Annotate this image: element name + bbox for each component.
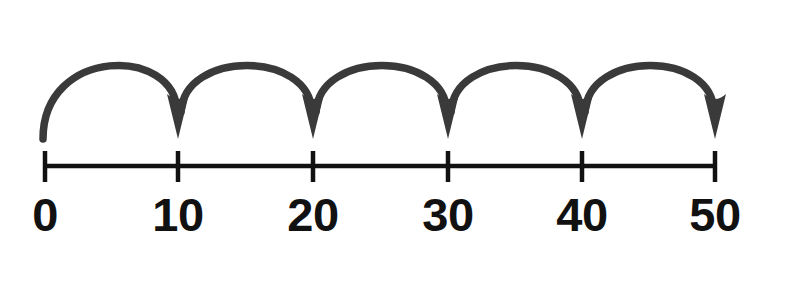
jump-arc-40-to-50 [585,66,714,113]
arrowhead-at-30 [437,94,459,139]
jump-arrowheads-group [167,94,726,139]
tick-label-0: 0 [32,191,58,238]
jump-arc-20-to-30 [316,66,447,113]
arrowhead-at-10 [167,94,189,139]
jump-arcs-group [43,65,714,139]
tick-label-10: 10 [152,191,203,238]
number-line-graphic [0,0,790,295]
arrowhead-at-40 [571,94,593,139]
arrowhead-at-20 [302,94,324,139]
jump-arc-0-to-10 [43,65,177,139]
jump-arc-10-to-20 [181,66,312,113]
tick-label-30: 30 [422,191,473,238]
tick-label-50: 50 [689,191,740,238]
arrowhead-at-50 [704,94,726,139]
number-line-figure: 0 10 20 30 40 50 [0,0,790,295]
tick-label-40: 40 [556,191,607,238]
tick-label-20: 20 [287,191,338,238]
jump-arc-30-to-40 [451,66,581,113]
